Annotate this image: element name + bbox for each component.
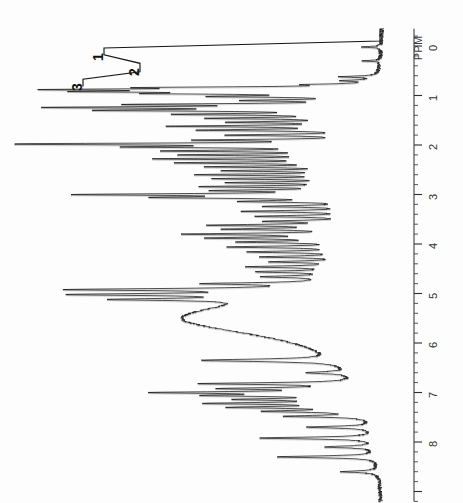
axis-tick-label-5: 5 — [427, 292, 439, 298]
axis-tick-label-6: 6 — [427, 342, 439, 348]
axis-tick-label-4: 4 — [427, 243, 439, 249]
ppm-axis — [414, 29, 422, 502]
axis-tick-label-2: 2 — [427, 144, 439, 150]
integration-trace — [83, 29, 380, 87]
integration-label-2: 2 — [126, 68, 142, 76]
integration-label-1: 1 — [90, 53, 106, 61]
ppm-axis-label: PPM — [412, 35, 424, 60]
axis-tick-label-3: 3 — [427, 193, 439, 199]
spectrum-trace — [15, 29, 384, 503]
axis-tick-label-0: 0 — [427, 45, 439, 51]
integration-label-3: 3 — [69, 83, 85, 91]
axis-tick-label-7: 7 — [427, 391, 439, 397]
nmr-spectrum-figure: PPM 012345678 123 — [0, 0, 463, 503]
axis-tick-label-1: 1 — [427, 94, 439, 100]
spectrum-canvas — [0, 0, 463, 503]
axis-tick-label-8: 8 — [427, 441, 439, 447]
